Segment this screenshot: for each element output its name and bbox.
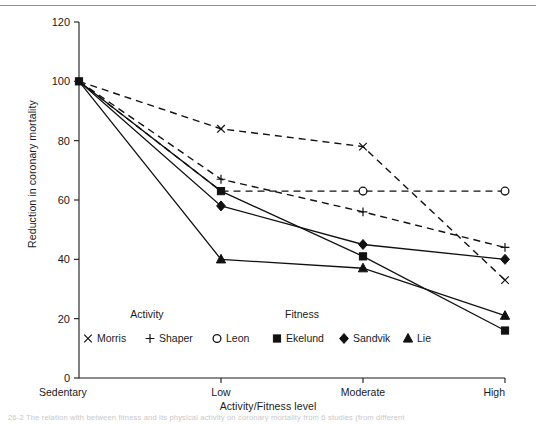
series-line-morris xyxy=(79,81,505,280)
data-point-ekelund-2 xyxy=(359,253,366,260)
data-point-leon-2 xyxy=(359,187,367,195)
data-point-morris-1 xyxy=(217,125,225,133)
y-tick-label: 0 xyxy=(64,372,70,384)
x-tick-label: Low xyxy=(211,386,231,398)
x-tick-label: Sedentary xyxy=(39,386,88,398)
y-tick-label: 120 xyxy=(52,16,70,28)
legend-label-lie: Lie xyxy=(417,332,431,344)
y-tick-label: 40 xyxy=(58,253,70,265)
legend-marker-sandvik xyxy=(340,334,349,344)
legend-label-sandvik: Sandvik xyxy=(353,332,391,344)
data-point-sandvik-2 xyxy=(359,240,368,250)
legend-marker-ekelund xyxy=(273,335,280,342)
legend-label-leon: Leon xyxy=(226,332,250,344)
axes-group xyxy=(79,22,505,378)
data-point-shaper-2 xyxy=(359,207,368,216)
data-point-ekelund-0 xyxy=(75,78,82,85)
data-point-ekelund-1 xyxy=(217,188,224,195)
legend-label-ekelund: Ekelund xyxy=(286,332,324,344)
data-point-ekelund-3 xyxy=(501,327,508,334)
y-tick-label: 20 xyxy=(58,313,70,325)
figure-caption: 26-2 The relation with between fitness a… xyxy=(8,414,536,422)
x-tick-group: SedentaryLowModerateHigh xyxy=(39,378,505,398)
series-line-ekelund xyxy=(79,81,505,330)
legend-group-title-activity: Activity xyxy=(130,308,164,320)
data-point-shaper-1 xyxy=(217,175,226,184)
data-point-morris-3 xyxy=(501,276,509,284)
series-lines-group xyxy=(79,81,505,330)
y-tick-label: 60 xyxy=(58,194,70,206)
legend-label-shaper: Shaper xyxy=(159,332,193,344)
legend-label-morris: Morris xyxy=(97,332,126,344)
legend-group-title-fitness: Fitness xyxy=(285,308,319,320)
series-line-lie xyxy=(79,81,505,315)
x-tick-label: Moderate xyxy=(341,386,386,398)
legend-marker-shaper xyxy=(146,334,155,343)
line-chart-plot: 020406080100120 SedentaryLowModerateHigh… xyxy=(0,0,536,424)
legend-group: ActivityFitnessMorrisShaperLeonEkelundSa… xyxy=(84,308,431,344)
y-tick-group: 020406080100120 xyxy=(52,16,79,384)
series-line-leon xyxy=(79,81,505,191)
legend-marker-lie xyxy=(403,334,412,343)
x-tick-label: High xyxy=(483,386,505,398)
axis-lines xyxy=(79,22,505,378)
figure-caption-strip: 26-2 The relation with between fitness a… xyxy=(0,414,536,424)
top-divider-rule xyxy=(0,5,536,6)
series-line-sandvik xyxy=(79,81,505,259)
legend-marker-leon xyxy=(213,335,221,343)
data-point-leon-3 xyxy=(501,187,509,195)
x-axis-label: Activity/Fitness level xyxy=(0,400,536,412)
legend-marker-morris xyxy=(84,335,92,343)
y-tick-label: 100 xyxy=(52,75,70,87)
data-point-shaper-3 xyxy=(501,243,510,252)
data-point-sandvik-3 xyxy=(501,254,510,264)
series-line-shaper xyxy=(79,81,505,247)
figure-container: Reduction in coronary mortality Activity… xyxy=(0,0,536,424)
y-tick-label: 80 xyxy=(58,135,70,147)
y-axis-label: Reduction in coronary mortality xyxy=(26,64,38,284)
